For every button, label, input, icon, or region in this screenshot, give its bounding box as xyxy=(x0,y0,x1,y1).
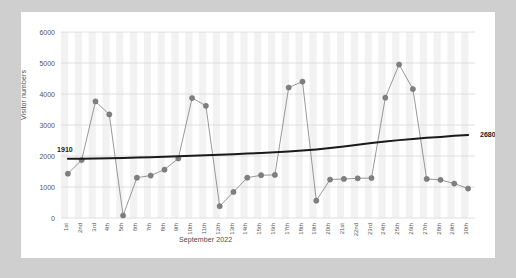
x-axis-tick-label: 3rd xyxy=(91,223,97,232)
x-axis-ticks: 1st2nd3rd4th5th6th7th8th9th10th11th12th1… xyxy=(63,223,469,237)
data-point-marker xyxy=(203,103,208,108)
y-axis-tick-label: 1000 xyxy=(39,184,55,191)
data-point-marker xyxy=(245,175,250,180)
data-point-marker xyxy=(438,177,443,182)
x-axis-tick-label: 11th xyxy=(201,223,207,234)
y-axis-tick-label: 0 xyxy=(51,215,55,222)
y-axis-tick-label: 3000 xyxy=(39,122,55,129)
x-axis-tick-label: 9th xyxy=(173,223,179,231)
x-axis-tick-label: 7th xyxy=(146,223,152,231)
y-axis-tick-label: 6000 xyxy=(39,29,55,36)
x-axis-tick-label: 13th xyxy=(229,223,235,235)
x-axis-tick-label: 5th xyxy=(118,223,124,231)
grid-layer xyxy=(61,32,475,218)
data-point-marker xyxy=(424,176,429,181)
x-axis-tick-label: 21st xyxy=(339,223,345,235)
data-point-marker xyxy=(369,175,374,180)
data-point-marker xyxy=(65,171,70,176)
data-point-marker xyxy=(162,167,167,172)
data-point-marker xyxy=(134,175,139,180)
x-axis-tick-label: 28th xyxy=(436,223,442,235)
x-axis-tick-label: 18th xyxy=(298,223,304,235)
x-axis-tick-label: 27th xyxy=(422,223,428,235)
y-axis-tick-label: 4000 xyxy=(39,91,55,98)
x-axis-tick-label: 30th xyxy=(463,223,469,235)
data-point-marker xyxy=(300,79,305,84)
x-axis-tick-label: 22nd xyxy=(353,223,359,236)
data-point-marker xyxy=(452,181,457,186)
data-point-marker xyxy=(259,173,264,178)
x-axis-tick-label: 14th xyxy=(242,223,248,235)
x-axis-tick-label: 19th xyxy=(311,223,317,235)
x-axis-tick-label: 26th xyxy=(408,223,414,235)
x-axis-tick-label: 2nd xyxy=(77,223,83,233)
chart-card: Visitor numbers September 2022 010002000… xyxy=(21,12,495,258)
x-axis-tick-label: 6th xyxy=(132,223,138,231)
data-point-marker xyxy=(231,189,236,194)
data-point-marker xyxy=(286,85,291,90)
data-point-marker xyxy=(355,176,360,181)
data-point-marker xyxy=(272,172,277,177)
data-point-marker xyxy=(217,204,222,209)
x-axis-tick-label: 4th xyxy=(104,223,110,231)
x-axis-tick-label: 12th xyxy=(215,223,221,235)
data-point-marker xyxy=(410,86,415,91)
data-point-marker xyxy=(121,213,126,218)
data-point-marker xyxy=(466,186,471,191)
y-axis-tick-label: 5000 xyxy=(39,60,55,67)
x-axis-tick-label: 20th xyxy=(325,223,331,235)
x-axis-tick-label: 1st xyxy=(63,223,69,231)
data-point-marker xyxy=(107,112,112,117)
data-point-marker xyxy=(190,95,195,100)
data-point-marker xyxy=(341,176,346,181)
y-axis-tick-label: 2000 xyxy=(39,153,55,160)
data-point-marker xyxy=(148,173,153,178)
x-axis-tick-label: 10th xyxy=(187,223,193,235)
x-axis-tick-label: 25th xyxy=(394,223,400,235)
trendline-end-label: 2680 xyxy=(480,131,495,138)
data-point-marker xyxy=(383,95,388,100)
data-point-marker xyxy=(93,99,98,104)
x-axis-tick-label: 17th xyxy=(284,223,290,235)
data-point-marker xyxy=(314,198,319,203)
data-point-marker xyxy=(328,177,333,182)
x-axis-tick-label: 15th xyxy=(256,223,262,235)
x-axis-tick-label: 24th xyxy=(380,223,386,235)
y-axis-ticks: 0100020003000400050006000 xyxy=(39,29,55,222)
x-axis-tick-label: 16th xyxy=(270,223,276,235)
x-axis-tick-label: 8th xyxy=(160,223,166,231)
trendline-start-label: 1910 xyxy=(57,146,73,153)
x-axis-tick-label: 23rd xyxy=(367,223,373,235)
data-point-marker xyxy=(397,62,402,67)
line-chart-plot: 0100020003000400050006000 1st2nd3rd4th5t… xyxy=(21,12,495,258)
x-axis-tick-label: 29th xyxy=(449,223,455,235)
